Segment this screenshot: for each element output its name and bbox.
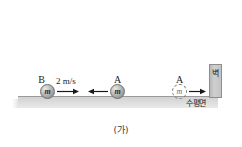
ball-a-solid-mass-symbol: m	[111, 85, 124, 98]
ball-b: m	[40, 84, 55, 99]
physics-diagram: 벽 수평면 B m 2 m/s A m A m (가)	[0, 0, 242, 147]
figure-caption: (가)	[0, 125, 242, 136]
ball-a-solid: m	[110, 84, 125, 99]
arrow-right-icon-2	[189, 88, 206, 95]
surface-label: 수평면	[186, 99, 206, 108]
ball-a-dashed: m	[172, 84, 187, 99]
arrow-right-icon	[57, 88, 79, 95]
ball-b-mass-symbol: m	[41, 85, 54, 98]
arrow-left-icon	[88, 88, 108, 95]
speed-label-b: 2 m/s	[56, 76, 76, 86]
ball-a-dashed-mass-symbol: m	[173, 85, 186, 98]
wall-label: 벽	[209, 69, 222, 78]
